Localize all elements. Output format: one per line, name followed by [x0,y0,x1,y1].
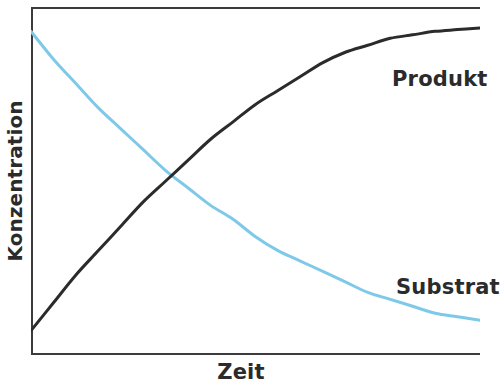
y-axis-label-text: Konzentration [3,100,27,261]
y-axis-label: Konzentration [0,0,30,362]
chart-curves [31,7,480,355]
x-axis-label: Zeit [31,360,451,384]
produkt-series-label: Produkt [392,67,488,91]
plot-area: Produkt Substrat [31,7,480,355]
substrat-series-label: Substrat [396,275,500,299]
